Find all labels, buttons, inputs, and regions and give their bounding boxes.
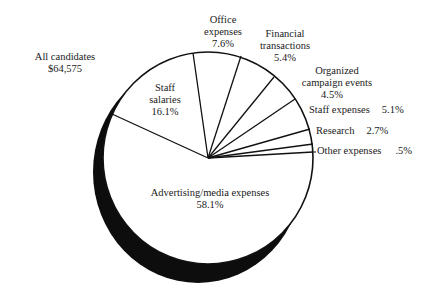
label-value: 16.1%: [140, 106, 190, 118]
title-line-1: All candidates: [20, 51, 110, 63]
label-text: Organized: [287, 65, 387, 77]
label-staff-expenses: Staff expenses5.1%: [309, 104, 404, 116]
label-text: transactions: [247, 40, 323, 52]
label-value: .5%: [395, 145, 412, 156]
label-text: campaign events: [287, 77, 387, 89]
label-text: Staff: [140, 82, 190, 94]
label-staff-salaries: Staff salaries 16.1%: [140, 82, 190, 118]
label-financial-transactions: Financial transactions 5.4%: [247, 28, 323, 64]
label-value: 58.1%: [130, 199, 290, 211]
label-text: salaries: [140, 94, 190, 106]
label-research: Research2.7%: [316, 125, 388, 137]
label-office-expenses: Office expenses 7.6%: [195, 14, 251, 50]
label-value: 7.6%: [195, 38, 251, 50]
pie-chart: All candidates $64,575 Staff salaries 16…: [0, 0, 425, 297]
label-text: Advertising/media expenses: [130, 187, 290, 199]
label-text: Other expenses: [317, 145, 381, 156]
label-text: expenses: [195, 26, 251, 38]
label-organized-campaign-events: Organized campaign events 4.5%: [287, 65, 387, 101]
label-text: Office: [195, 14, 251, 26]
label-advertising-media-expenses: Advertising/media expenses 58.1%: [130, 187, 290, 211]
label-other-expenses: Other expenses.5%: [317, 145, 412, 157]
label-value: 5.4%: [247, 52, 323, 64]
label-value: 4.5%: [287, 89, 387, 101]
label-value: 2.7%: [366, 125, 388, 136]
label-text: Staff expenses: [309, 104, 370, 115]
title-line-2: $64,575: [20, 63, 110, 75]
label-text: Research: [316, 125, 354, 136]
label-text: Financial: [247, 28, 323, 40]
label-value: 5.1%: [382, 104, 404, 115]
chart-title: All candidates $64,575: [20, 51, 110, 75]
